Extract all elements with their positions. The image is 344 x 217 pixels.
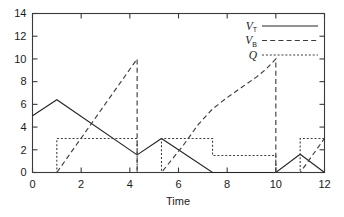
legend-label-q: Q <box>249 49 258 61</box>
y-tick-label: 6 <box>20 98 26 110</box>
y-tick-label: 12 <box>14 30 26 42</box>
x-axis-tick-labels: 024681012 <box>29 178 330 190</box>
chart-container: 02468101214 024681012 VTVBQ Time <box>0 0 344 217</box>
chart-svg: 02468101214 024681012 VTVBQ Time <box>0 0 344 217</box>
x-tick-label: 8 <box>224 178 230 190</box>
legend-label-vb: VB <box>245 34 257 48</box>
x-tick-label: 0 <box>29 178 35 190</box>
data-series-group <box>33 59 325 173</box>
y-tick-label: 10 <box>14 53 26 65</box>
y-axis-ticks <box>33 14 325 173</box>
series-line-vt <box>33 100 325 173</box>
x-axis-title: Time <box>166 195 190 207</box>
x-tick-label: 12 <box>318 178 330 190</box>
x-tick-label: 2 <box>78 178 84 190</box>
x-axis-ticks <box>33 14 325 173</box>
y-tick-label: 2 <box>20 144 26 156</box>
y-tick-label: 4 <box>20 121 26 133</box>
chart-legend: VTVBQ <box>245 20 318 61</box>
y-axis-tick-labels: 02468101214 <box>14 7 26 178</box>
series-line-vb <box>33 59 325 173</box>
x-tick-label: 4 <box>127 178 133 190</box>
series-line-q <box>33 138 325 172</box>
plot-frame <box>33 14 325 173</box>
x-tick-label: 6 <box>175 178 181 190</box>
legend-label-vt: VT <box>246 20 258 34</box>
y-tick-label: 8 <box>20 75 26 87</box>
y-tick-label: 0 <box>20 166 26 178</box>
y-tick-label: 14 <box>14 7 26 19</box>
x-tick-label: 10 <box>270 178 282 190</box>
